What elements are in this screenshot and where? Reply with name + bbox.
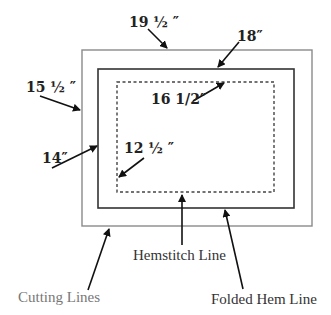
hem-diagram: 19 ½ ″ 18″ 16 1/2″ 15 ½ ″ 14″ 12 ½ ″ Cut… <box>0 0 331 315</box>
folded-hem-rect <box>98 69 294 208</box>
cutting-lines-label: Cutting Lines <box>18 289 100 305</box>
cutting-line-rect <box>82 50 312 226</box>
folded-height-label: 14″ <box>42 150 68 166</box>
arrow-hemstitch-height <box>119 158 144 177</box>
arrow-cutting-height <box>40 96 80 110</box>
hemstitch-width-label: 16 1/2″ <box>151 91 206 107</box>
arrow-cutting-width <box>148 29 167 48</box>
arrow-cutting-lines <box>88 229 109 290</box>
arrow-folded-hem-line <box>225 210 243 289</box>
arrow-folded-width <box>218 42 239 67</box>
cutting-height-label: 15 ½ ″ <box>26 79 76 95</box>
hemstitch-height-label: 12 ½ ″ <box>124 140 174 156</box>
hemstitch-line-label: Hemstitch Line <box>133 247 226 263</box>
folded-width-label: 18″ <box>237 28 263 44</box>
cutting-width-label: 19 ½ ″ <box>129 14 179 30</box>
folded-hem-line-label: Folded Hem Line <box>211 291 317 307</box>
